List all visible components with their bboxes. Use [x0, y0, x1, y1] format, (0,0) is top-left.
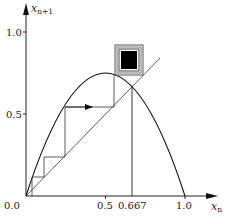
x-tick-label-10: 1.0 [176, 200, 192, 211]
map-curve [26, 73, 185, 196]
y-tick-label-10: 1.0 [6, 27, 22, 38]
y-axis-label: xn+1 [31, 2, 53, 16]
diagonal-line [26, 58, 160, 196]
spiral-box [115, 45, 143, 75]
y-axis-arrow-icon [23, 3, 29, 15]
y-tick-label-05: 0.5 [6, 109, 22, 120]
origin-label: 0.0 [4, 200, 20, 211]
x-axis-label: xn [211, 200, 222, 214]
x-axis-arrow-icon [206, 193, 218, 199]
x-tick-label-05: 0.5 [97, 200, 113, 211]
cobweb-chart: 0.0 0.5 0.667 1.0 0.5 1.0 xn xn+1 [0, 0, 231, 223]
x-tick-label-0667: 0.667 [118, 200, 147, 211]
